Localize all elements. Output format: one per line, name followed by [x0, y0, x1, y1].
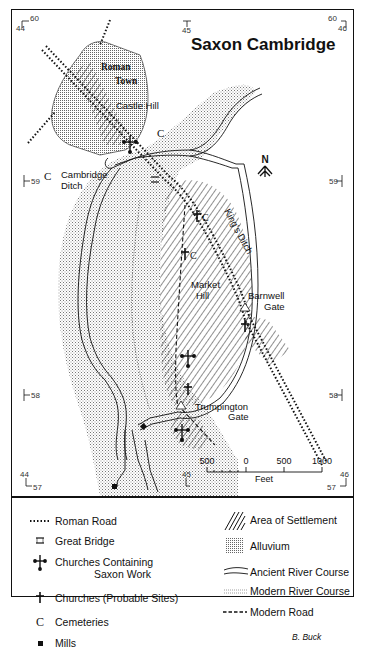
legend-label: Saxon Work	[94, 568, 152, 580]
legend-item-probable-church: Churches (Probable Sites)	[36, 592, 178, 604]
trumpington-gate-label: Gate	[228, 411, 249, 422]
legend-item-modern-river: Modern River Course	[224, 585, 350, 597]
north-arrow: N	[258, 154, 272, 177]
map-title: Saxon Cambridge	[191, 35, 336, 54]
saxon-church-icon	[34, 555, 46, 570]
grid-label: 45	[182, 26, 191, 35]
legend-label: Modern River Course	[250, 585, 350, 597]
cambridge-ditch-label: Ditch	[61, 180, 83, 191]
legend-label: Ancient River Course	[250, 566, 349, 578]
scale-label: 500	[276, 456, 291, 466]
grid-label: 57	[33, 483, 42, 492]
legend-label: Roman Road	[55, 515, 117, 527]
grid-label: 58	[329, 391, 338, 400]
legend-label: Alluvium	[250, 540, 290, 552]
legend-item-modern-road: Modern Road	[223, 606, 314, 618]
scale-unit: Feet	[255, 474, 274, 484]
barnwell-gate-label: Barnwell	[248, 290, 284, 301]
cemetery-mark: C	[157, 127, 164, 139]
probable-church-icon	[36, 592, 44, 603]
legend-label: Mills	[55, 637, 76, 649]
legend-item-alluvium: Alluvium	[225, 538, 290, 553]
legend-label: Area of Settlement	[250, 514, 337, 526]
legend-item-mill: Mills	[38, 637, 76, 649]
barnwell-settlement	[245, 315, 290, 365]
ancient-river-icon	[224, 568, 248, 574]
alluvium-icon	[225, 538, 243, 553]
legend-item-settlement: Area of Settlement	[225, 512, 337, 530]
grid-label: 46	[340, 470, 349, 479]
scale-label: 500	[199, 456, 214, 466]
grid-label: 44	[16, 24, 25, 33]
grid-label: 45	[182, 470, 191, 479]
north-label: N	[261, 154, 268, 165]
grid-label: 46	[338, 24, 347, 33]
cemetery-mark: C	[44, 170, 51, 182]
great-bridge-icon	[36, 538, 44, 543]
credit-label: B. Buck	[292, 632, 322, 642]
map-canvas: C C C C Roman Town Castle Hill Cambridge…	[0, 0, 367, 655]
legend-item-cemetery: C Cemeteries	[36, 615, 109, 629]
market-hill-label: Market	[191, 279, 220, 290]
barnwell-gate-label: Gate	[264, 301, 285, 312]
legend-item-ancient-river: Ancient River Course	[224, 566, 349, 578]
legend-label: Great Bridge	[55, 535, 115, 547]
legend-item-roman-road: Roman Road	[30, 515, 117, 527]
market-hill-label: Hill	[196, 290, 209, 301]
scale-label: 1000	[312, 456, 332, 466]
legend-left: Roman Road Great Bridge Churches Contain…	[30, 515, 178, 649]
grid-label: 57	[327, 483, 336, 492]
legend-right: Area of Settlement Alluvium Ancient Rive…	[223, 512, 350, 642]
legend-item-saxon-church: Churches Containing Saxon Work	[34, 555, 153, 580]
cemetery-mark: C	[202, 212, 209, 223]
cambridge-ditch-label: Cambridge	[61, 169, 107, 180]
cemetery-mark: C	[190, 250, 197, 261]
north-arrow-icon	[258, 166, 272, 177]
mill-icon	[112, 484, 117, 489]
cemetery-icon: C	[36, 615, 44, 629]
legend-label: Churches Containing	[55, 556, 153, 568]
modern-river-icon	[224, 590, 247, 593]
grid-label: 58	[31, 391, 40, 400]
scale-label: 0	[243, 456, 248, 466]
legend-label: Cemeteries	[55, 616, 109, 628]
legend-item-great-bridge: Great Bridge	[36, 535, 115, 547]
grid-label: 59	[31, 177, 40, 186]
roman-town-label: Town	[115, 76, 138, 86]
grid-label: 60	[30, 14, 39, 23]
settlement-hatch-icon	[225, 512, 245, 530]
grid-label: 44	[20, 470, 29, 479]
grid-label: 60	[328, 14, 337, 23]
grid-label: 59	[329, 177, 338, 186]
roman-town-label: Roman	[101, 62, 131, 72]
legend-label: Modern Road	[250, 606, 314, 618]
legend-label: Churches (Probable Sites)	[55, 592, 178, 604]
castle-hill-label: Castle Hill	[116, 100, 159, 111]
mill-icon	[38, 641, 43, 646]
